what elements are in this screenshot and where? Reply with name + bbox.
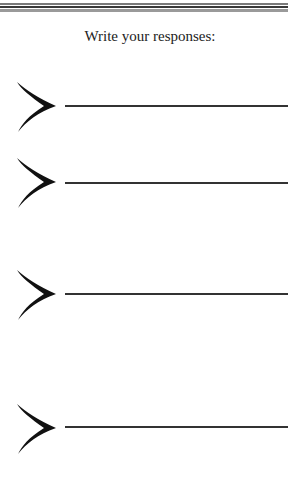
chevron-right-icon [14,80,58,134]
divider-line [0,6,288,8]
divider-line [0,3,288,5]
response-line-2[interactable] [65,182,288,184]
response-row-2 [0,154,300,214]
response-line-4[interactable] [65,426,288,428]
response-line-3[interactable] [65,293,288,295]
chevron-right-icon [14,268,58,322]
divider-line [0,9,288,12]
chevron-right-icon [14,402,58,456]
response-row-4 [0,400,300,460]
response-line-1[interactable] [65,105,288,107]
page-heading: Write your responses: [0,28,300,45]
response-row-1 [0,78,300,138]
response-row-3 [0,266,300,326]
top-divider [0,3,288,12]
chevron-right-icon [14,156,58,210]
